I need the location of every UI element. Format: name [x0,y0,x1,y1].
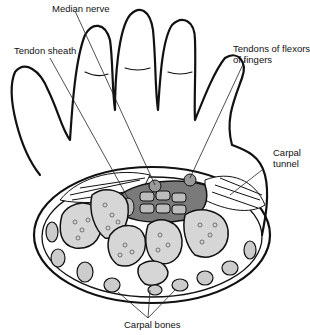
label-tendons-flexors-line2: of fingers [233,54,272,65]
label-tendon-sheath: Tendon sheath [14,45,76,56]
label-carpal-tunnel-line2: tunnel [273,158,299,169]
hypothenar-muscle [205,176,265,210]
label-tendons-flexors-line1: Tendons of flexors [233,43,310,54]
median-nerve [149,180,161,192]
label-carpal-tunnel-line1: Carpal [273,147,301,158]
flexor-tendon [140,192,154,201]
carpal-tunnel-diagram: Median nerve Tendon sheath Tendons of fl… [0,0,310,335]
label-carpal-bones: Carpal bones [124,319,181,330]
label-median-nerve: Median nerve [52,3,110,14]
